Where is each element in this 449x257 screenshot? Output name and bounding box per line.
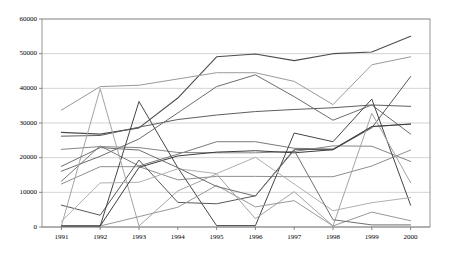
x-tick-label: 2000 [391,233,431,241]
y-tick-label: 50000 [20,49,38,57]
series-line [61,150,410,184]
x-tick-label: 1997 [274,233,314,241]
y-tick-label: 20000 [20,153,38,161]
y-tick-label: 30000 [20,119,38,127]
x-tick-label: 1994 [158,233,198,241]
x-tick-label: 1996 [235,233,275,241]
y-tick-label: 40000 [20,84,38,92]
x-tick-label: 1991 [41,233,81,241]
series-line [61,99,410,226]
chart-canvas [0,0,449,257]
axis-ticks [39,19,411,230]
x-tick-label: 1995 [197,233,237,241]
series-line [61,148,410,225]
series-line [61,36,410,134]
x-tick-label: 1999 [352,233,392,241]
y-tick-label: 60000 [20,15,38,23]
x-tick-label: 1998 [313,233,353,241]
y-tick-label: 10000 [20,188,38,196]
x-tick-label: 1992 [80,233,120,241]
series-line [61,57,410,110]
y-tick-label: 0 [34,223,38,231]
line-chart: 0100002000030000400005000060000 19911992… [0,0,449,257]
series-lines [61,36,410,226]
series-line [61,124,410,226]
x-tick-label: 1993 [119,233,159,241]
